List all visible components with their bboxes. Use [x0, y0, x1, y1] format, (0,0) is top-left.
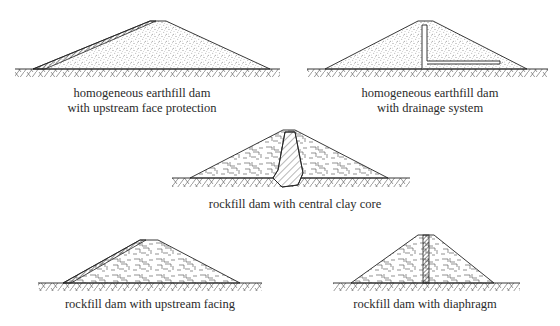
caption-line: with upstream face protection: [22, 101, 262, 116]
ground-hatch: [15, 69, 280, 77]
caption-homogeneous-drainage: homogeneous earthfill dam with drainage …: [310, 86, 550, 116]
caption-line: rockfill dam with upstream facing: [40, 297, 260, 312]
ground-hatch: [307, 69, 548, 77]
caption-rockfill-clay-core: rockfill dam with central clay core: [180, 197, 410, 212]
dam-rockfill-clay-core: [172, 130, 410, 187]
caption-homogeneous-face-protection: homogeneous earthfill dam with upstream …: [22, 86, 262, 116]
caption-line: homogeneous earthfill dam: [22, 86, 262, 101]
dam-rockfill-diaphragm: [333, 235, 520, 291]
caption-line: rockfill dam with central clay core: [180, 197, 410, 212]
dam-rockfill-upstream-facing: [38, 240, 262, 291]
dam-homogeneous-drainage: [307, 21, 548, 77]
dam-homogeneous-face-protection: [15, 21, 280, 77]
caption-line: with drainage system: [310, 101, 550, 116]
earthfill-body: [33, 21, 270, 69]
ground-hatch: [38, 283, 262, 291]
diaphragm-wall: [423, 235, 429, 283]
caption-line: rockfill dam with diaphragm: [330, 297, 520, 312]
rockfill-body: [351, 235, 494, 283]
dam-types-figure: [0, 0, 560, 326]
ground-hatch: [333, 283, 520, 291]
rockfill-body: [63, 240, 240, 283]
caption-line: homogeneous earthfill dam: [310, 86, 550, 101]
caption-rockfill-upstream-facing: rockfill dam with upstream facing: [40, 297, 260, 312]
caption-rockfill-diaphragm: rockfill dam with diaphragm: [330, 297, 520, 312]
